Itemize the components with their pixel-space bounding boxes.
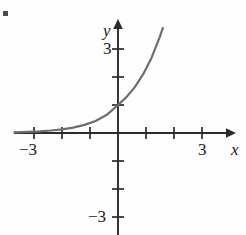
y-axis-label: y	[103, 22, 111, 39]
y-tick-label-neg3: −3	[88, 208, 106, 225]
y-axis-arrowhead	[113, 19, 123, 29]
graph-figure: y x −3 3 3 −3	[0, 0, 246, 235]
exponential-curve	[14, 28, 162, 132]
coordinate-plane	[0, 0, 246, 235]
x-axis-label: x	[231, 141, 239, 158]
x-tick-label-3: 3	[198, 141, 207, 158]
x-axis-arrowhead	[226, 128, 236, 138]
x-tick-label-neg3: −3	[19, 141, 37, 158]
y-tick-label-3: 3	[103, 40, 112, 57]
